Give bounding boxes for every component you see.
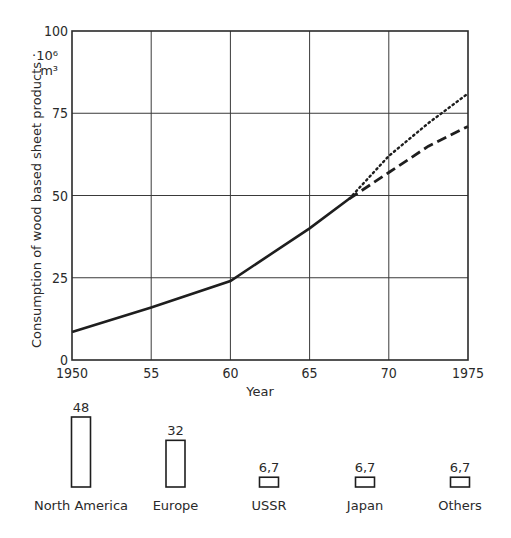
x-tick-label: 70 <box>381 365 397 381</box>
grid <box>72 31 468 360</box>
y-tick-label: 100 <box>44 23 68 39</box>
y-unit-exponent: ·10⁶ <box>32 48 58 63</box>
y-tick-label: 25 <box>52 270 68 286</box>
bar-value-label: 32 <box>167 423 184 438</box>
regional-bars: 48North America32Europe6,7USSR6,7Japan6,… <box>34 400 482 513</box>
y-axis-label: Consumption of wood based sheet products <box>29 62 44 348</box>
bar <box>72 417 91 487</box>
bar-value-label: 6,7 <box>450 460 471 475</box>
bar-value-label: 6,7 <box>259 460 280 475</box>
y-tick-label: 0 <box>60 352 68 368</box>
chart-canvas: 1950556065701975 0255075100 ·10⁶ m³ Cons… <box>0 0 511 538</box>
bar <box>260 477 279 487</box>
bar-category-label: Japan <box>346 498 383 513</box>
x-tick-label: 65 <box>302 365 318 381</box>
bar <box>166 440 185 487</box>
series-line-forecast-low <box>349 126 468 198</box>
x-axis-label: Year <box>245 384 274 399</box>
x-tick-label: 1975 <box>452 365 484 381</box>
series-line-forecast-high <box>349 94 468 199</box>
x-tick-label: 60 <box>222 365 238 381</box>
bar-value-label: 6,7 <box>355 460 376 475</box>
bar-category-label: Others <box>438 498 482 513</box>
bar <box>451 477 470 487</box>
x-tick-labels: 1950556065701975 <box>56 365 484 381</box>
series-line-actual <box>72 199 349 332</box>
bar-value-label: 48 <box>73 400 90 415</box>
bar-category-label: USSR <box>251 498 286 513</box>
y-tick-label: 50 <box>52 188 68 204</box>
bar <box>356 477 375 487</box>
series-group <box>72 94 468 333</box>
bar-category-label: North America <box>34 498 128 513</box>
y-tick-label: 75 <box>52 105 68 121</box>
x-tick-label: 55 <box>143 365 159 381</box>
bar-category-label: Europe <box>153 498 199 513</box>
